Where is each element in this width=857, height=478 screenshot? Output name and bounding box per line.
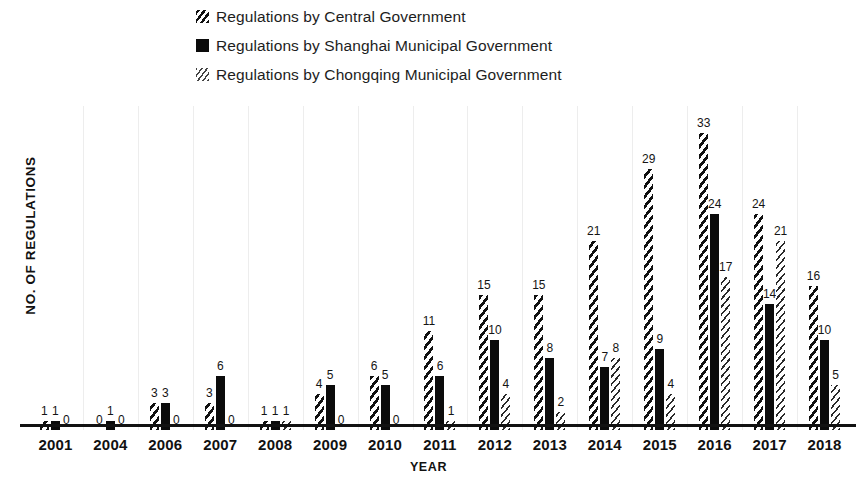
- x-tick-label: 2009: [303, 436, 358, 453]
- x-tick-label: 2013: [522, 436, 577, 453]
- bar-shanghai: 5: [326, 106, 335, 430]
- x-tick-label: 2012: [467, 436, 522, 453]
- x-tick-label: 2008: [248, 436, 303, 453]
- bar-rect-central: [589, 241, 598, 430]
- bar-rect-shanghai: [490, 340, 499, 430]
- bar-group: 16105: [797, 106, 852, 430]
- bar-value-label: 1: [41, 405, 48, 417]
- bar-value-label: 3: [206, 387, 213, 399]
- bar-rect-shanghai: [435, 376, 444, 430]
- bar-group: 2178: [577, 106, 632, 430]
- legend-swatch-central-icon: [196, 10, 209, 23]
- x-tick-label: 2001: [28, 436, 83, 453]
- bar-value-label: 15: [532, 279, 545, 291]
- bar-value-label: 3: [151, 387, 158, 399]
- legend-swatch-shanghai-icon: [196, 39, 209, 52]
- bar-chongqing: 1: [446, 106, 455, 430]
- bar-chart: NO. OF REGULATIONS 110010330360111450650…: [0, 100, 857, 478]
- bar-value-label: 10: [818, 324, 831, 336]
- bar-group: 360: [193, 106, 248, 430]
- bar-rect-shanghai: [545, 358, 554, 430]
- bar-group-bars: 1161: [413, 106, 468, 430]
- bar-group-bars: 241421: [742, 106, 797, 430]
- bar-chongqing: 4: [666, 106, 675, 430]
- bar-rect-chongqing: [776, 241, 785, 430]
- bar-central: 3: [150, 106, 159, 430]
- bar-rect-shanghai: [655, 349, 664, 430]
- bar-group: 450: [303, 106, 358, 430]
- bar-rect-central: [754, 214, 763, 430]
- x-tick-label: 2007: [193, 436, 248, 453]
- legend-swatch-chongqing-icon: [196, 68, 209, 81]
- bar-chongqing: 0: [172, 106, 181, 430]
- bar-group: 111: [248, 106, 303, 430]
- bar-rect-central: [809, 286, 818, 430]
- bar-chongqing: 21: [776, 106, 785, 430]
- bar-value-label: 5: [327, 369, 334, 381]
- bar-value-label: 15: [477, 279, 490, 291]
- bar-group: 1582: [522, 106, 577, 430]
- bar-chongqing: 5: [831, 106, 840, 430]
- bar-group: 241421: [742, 106, 797, 430]
- bar-group: 332417: [687, 106, 742, 430]
- x-axis-ticks: 2001200420062007200820092010201120122013…: [28, 436, 852, 462]
- bar-value-label: 14: [763, 288, 776, 300]
- bar-shanghai: 10: [820, 106, 829, 430]
- bar-value-label: 24: [708, 198, 721, 210]
- bar-group-bars: 2994: [632, 106, 687, 430]
- bar-central: 1: [40, 106, 49, 430]
- x-tick-label: 2017: [742, 436, 797, 453]
- bar-value-label: 29: [642, 153, 655, 165]
- bar-value-label: 4: [503, 378, 510, 390]
- bar-group-bars: 110: [28, 106, 83, 430]
- bar-value-label: 16: [807, 270, 820, 282]
- bar-shanghai: 3: [161, 106, 170, 430]
- x-tick-label: 2014: [577, 436, 632, 453]
- x-tick-label: 2015: [632, 436, 687, 453]
- x-tick-label: 2010: [358, 436, 413, 453]
- legend-label-central: Regulations by Central Government: [216, 9, 466, 25]
- bar-central: 33: [699, 106, 708, 430]
- bar-value-label: 1: [52, 405, 59, 417]
- bar-value-label: 2: [558, 396, 565, 408]
- bar-group: 15104: [467, 106, 522, 430]
- bar-value-label: 1: [107, 405, 114, 417]
- bar-rect-central: [534, 295, 543, 430]
- bar-central: 1: [260, 106, 269, 430]
- bar-shanghai: 1: [271, 106, 280, 430]
- legend-item-chongqing: Regulations by Chongqing Municipal Gover…: [196, 60, 716, 89]
- bar-rect-central: [424, 331, 433, 430]
- bar-rect-central: [370, 376, 379, 430]
- bar-value-label: 7: [601, 351, 608, 363]
- bar-group-bars: 650: [358, 106, 413, 430]
- bar-value-label: 17: [719, 261, 732, 273]
- bar-rect-chongqing: [721, 277, 730, 430]
- bar-chongqing: 0: [117, 106, 126, 430]
- bar-value-label: 1: [448, 405, 455, 417]
- bar-chongqing: 2: [556, 106, 565, 430]
- bar-group: 110: [28, 106, 83, 430]
- bar-rect-central: [479, 295, 488, 430]
- bar-value-label: 6: [437, 360, 444, 372]
- bar-value-label: 10: [488, 324, 501, 336]
- bar-rect-chongqing: [556, 412, 565, 430]
- bar-value-label: 6: [371, 360, 378, 372]
- bar-shanghai: 24: [710, 106, 719, 430]
- bar-rect-shanghai: [600, 367, 609, 430]
- bar-central: 6: [370, 106, 379, 430]
- bar-rect-central: [644, 169, 653, 430]
- bar-value-label: 1: [272, 405, 279, 417]
- bar-chongqing: 0: [337, 106, 346, 430]
- bar-shanghai: 7: [600, 106, 609, 430]
- bar-rect-shanghai: [216, 376, 225, 430]
- bar-shanghai: 6: [216, 106, 225, 430]
- bar-rect-central: [699, 133, 708, 430]
- bar-chongqing: 4: [501, 106, 510, 430]
- chart-legend: Regulations by Central Government Regula…: [196, 2, 716, 89]
- bar-group-bars: 16105: [797, 106, 852, 430]
- bar-chongqing: 1: [282, 106, 291, 430]
- bar-value-label: 8: [547, 342, 554, 354]
- bar-shanghai: 5: [381, 106, 390, 430]
- bar-central: 3: [205, 106, 214, 430]
- legend-label-shanghai: Regulations by Shanghai Municipal Govern…: [216, 38, 552, 54]
